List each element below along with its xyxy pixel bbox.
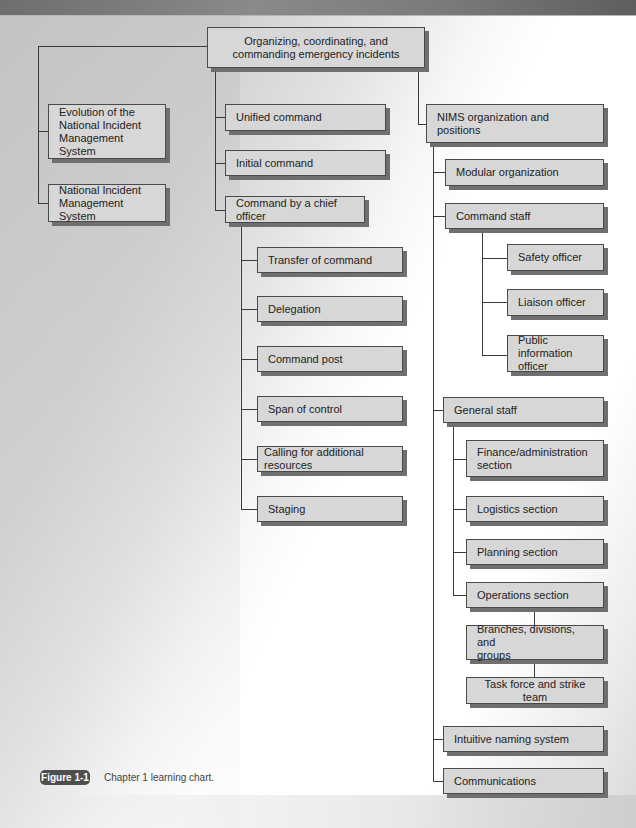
node-nims-organization: NIMS organization and positions (426, 104, 604, 143)
connector (38, 131, 48, 132)
node-liaison-officer: Liaison officer (507, 289, 604, 316)
node-nims: National Incident Management System (48, 184, 166, 222)
connector (433, 739, 443, 740)
node-initial-command: Initial command (225, 150, 386, 176)
connector (418, 68, 419, 124)
node-planning-section: Planning section (466, 539, 604, 565)
node-command-post: Command post (257, 346, 403, 372)
node-staging: Staging (257, 496, 403, 522)
connector (453, 509, 466, 510)
node-label: Logistics section (477, 503, 558, 516)
node-label: Communications (454, 775, 536, 788)
connector (482, 229, 483, 355)
node-command-staff: Command staff (445, 203, 604, 229)
node-label: Initial command (236, 157, 313, 170)
node-label: General staff (454, 404, 517, 417)
node-transfer-of-command: Transfer of command (257, 247, 403, 273)
node-label: National Incident Management System (59, 184, 155, 223)
connector (433, 143, 434, 782)
node-label: Intuitive naming system (454, 733, 569, 746)
node-operations-section: Operations section (466, 582, 604, 608)
connector (453, 595, 466, 596)
connector (433, 410, 443, 411)
node-label: Branches, divisions, and groups (477, 623, 593, 662)
node-label: Transfer of command (268, 254, 372, 267)
connector (453, 459, 466, 460)
connector (241, 459, 257, 460)
node-modular-organization: Modular organization (445, 159, 604, 186)
node-label: Safety officer (518, 251, 582, 264)
figure-caption: Chapter 1 learning chart. (104, 770, 214, 785)
connector (433, 216, 445, 217)
node-label: Command post (268, 353, 343, 366)
node-branches-divisions-groups: Branches, divisions, and groups (466, 625, 604, 660)
connector (453, 552, 466, 553)
node-label: Span of control (268, 403, 342, 416)
figure-label-badge: Figure 1-1 (40, 770, 90, 785)
connector (534, 660, 535, 677)
node-label: Command staff (456, 210, 530, 223)
node-label: Finance/administration section (477, 446, 588, 472)
node-label: Staging (268, 503, 305, 516)
node-communications: Communications (443, 768, 604, 794)
node-label: Liaison officer (518, 296, 586, 309)
node-finance-admin-section: Finance/administration section (466, 440, 604, 477)
node-label: Planning section (477, 546, 558, 559)
node-command-by-chief-officer: Command by a chief officer (225, 196, 365, 223)
node-label: Unified command (236, 111, 322, 124)
node-safety-officer: Safety officer (507, 244, 604, 271)
connector (241, 309, 257, 310)
node-public-information-officer: Public information officer (507, 335, 604, 372)
root-node: Organizing, coordinating, and commanding… (207, 27, 425, 68)
node-calling-for-resources: Calling for additional resources (257, 446, 403, 472)
connector (241, 260, 257, 261)
node-label: Delegation (268, 303, 321, 316)
connector (418, 124, 426, 125)
footer-band (0, 795, 636, 828)
connector (38, 46, 207, 47)
node-label: Modular organization (456, 166, 559, 179)
connector (38, 46, 39, 204)
node-general-staff: General staff (443, 397, 604, 423)
node-label: Operations section (477, 589, 569, 602)
connector (215, 68, 216, 210)
connector (482, 302, 507, 303)
node-label: NIMS organization and positions (437, 111, 593, 137)
header-band (0, 0, 636, 16)
node-delegation: Delegation (257, 296, 403, 322)
connector (433, 781, 443, 782)
connector (241, 359, 257, 360)
connector (241, 409, 257, 410)
connector (241, 509, 257, 510)
node-label: Command by a chief officer (236, 197, 354, 223)
connector (241, 223, 242, 510)
node-evolution-nims: Evolution of the National Incident Manag… (48, 104, 166, 159)
node-unified-command: Unified command (225, 104, 386, 131)
connector (215, 210, 225, 211)
connector (433, 172, 445, 173)
connector (215, 117, 225, 118)
node-label: Public information officer (518, 334, 593, 373)
root-node-label: Organizing, coordinating, and commanding… (233, 35, 400, 61)
node-label: Calling for additional resources (264, 446, 396, 472)
node-intuitive-naming-system: Intuitive naming system (443, 726, 604, 752)
node-span-of-control: Span of control (257, 396, 403, 422)
connector (38, 203, 48, 204)
node-label: Task force and strike team (477, 678, 593, 704)
connector (215, 163, 225, 164)
node-label: Evolution of the National Incident Manag… (59, 106, 155, 158)
connector (482, 355, 507, 356)
node-logistics-section: Logistics section (466, 496, 604, 522)
connector (482, 258, 507, 259)
node-task-force-strike-team: Task force and strike team (466, 677, 604, 704)
